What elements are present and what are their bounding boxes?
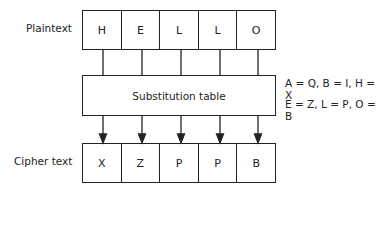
ciphertext-label: Cipher text xyxy=(14,155,72,167)
ciphertext-cell: B xyxy=(237,144,275,182)
substitution-table-label: Substitution table xyxy=(132,90,225,102)
arrow-down-icon xyxy=(100,116,262,143)
mapping-line-2: E = Z, L = P, O = B xyxy=(285,98,385,122)
ciphertext-cell: P xyxy=(199,144,238,182)
ciphertext-cell: Z xyxy=(122,144,161,182)
substitution-table: Substitution table xyxy=(82,75,276,116)
ciphertext-cell: X xyxy=(83,144,122,182)
ciphertext-cell: P xyxy=(160,144,199,182)
ciphertext-row: X Z P P B xyxy=(82,143,276,183)
